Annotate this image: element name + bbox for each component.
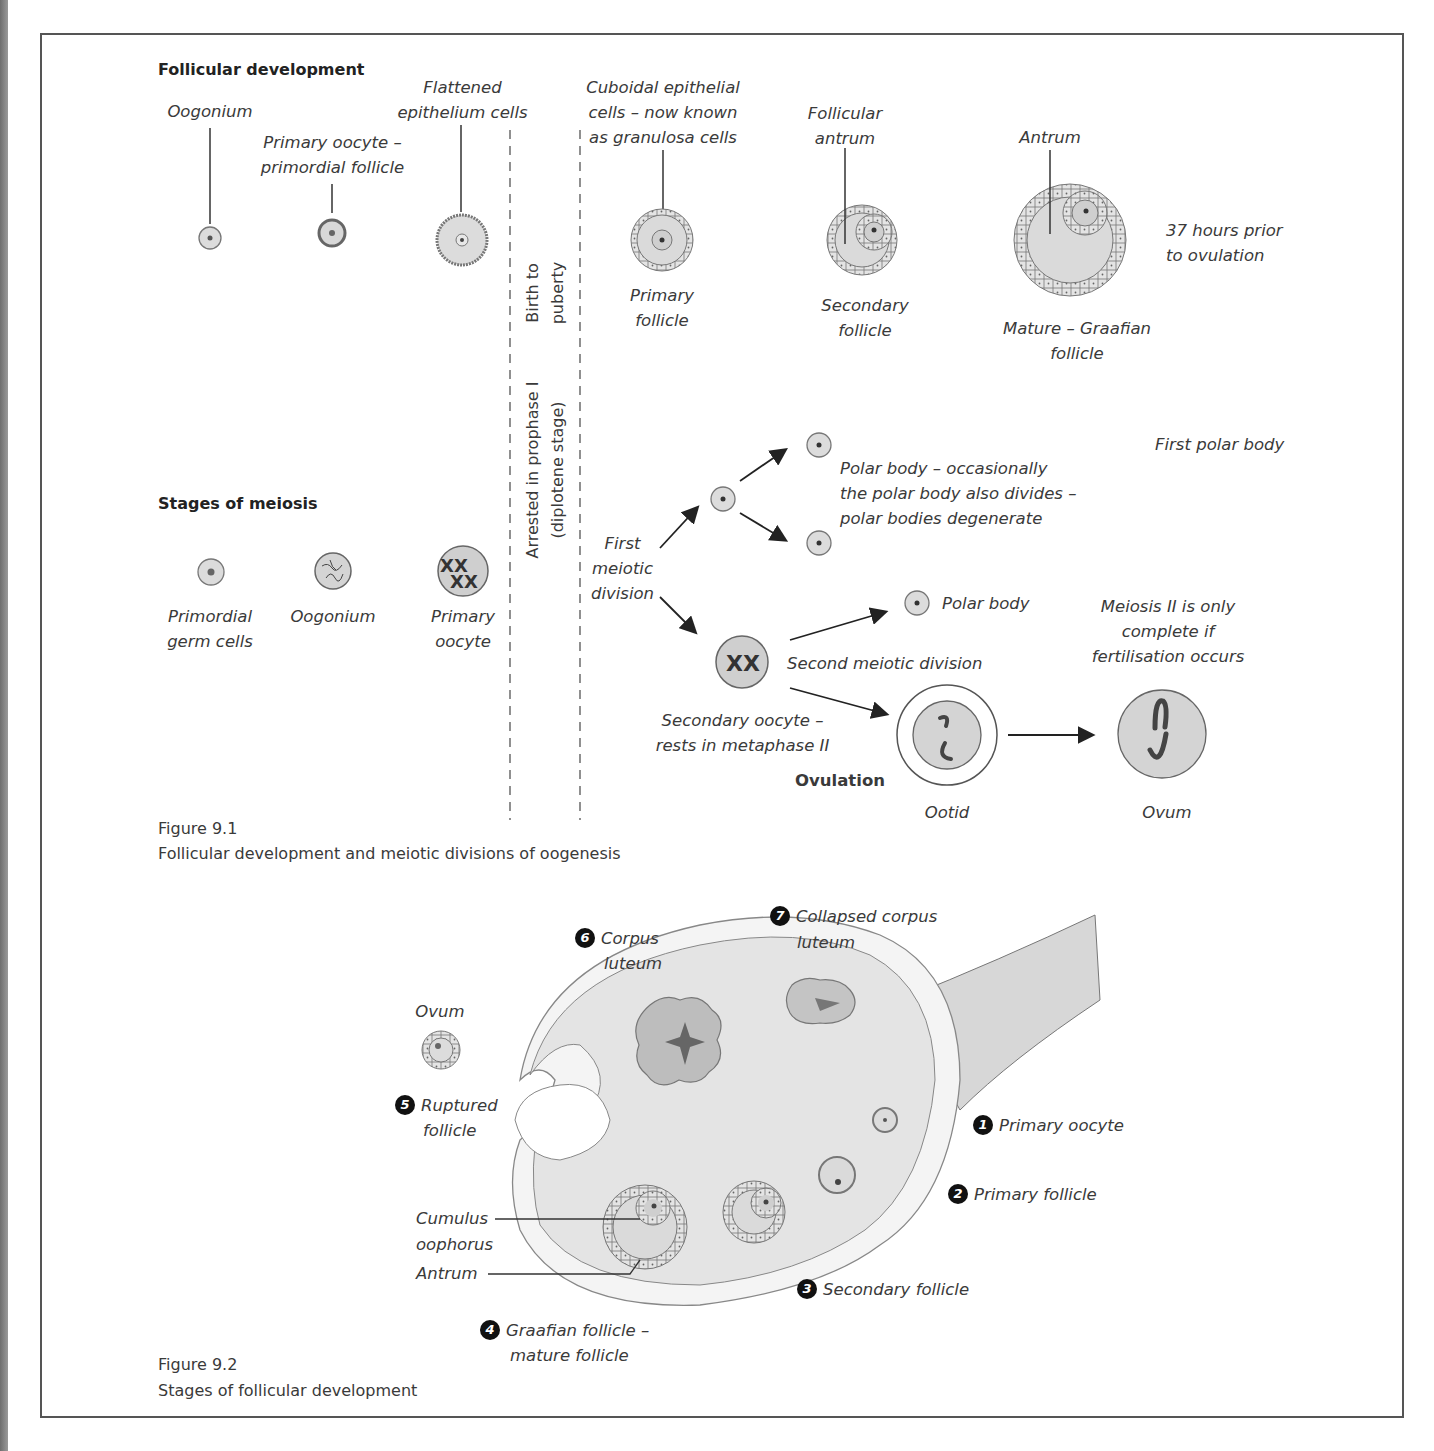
label-primary-oocyte-line2: primordial follicle	[250, 155, 415, 180]
label-second-meiotic: Second meiotic division	[787, 651, 982, 676]
svg-text:XX: XX	[450, 571, 478, 592]
label-flattened-line1: Flattened	[390, 75, 535, 100]
label-meiosis2-line3: fertilisation occurs	[1078, 644, 1258, 669]
label-meiosis2-line2: complete if	[1078, 619, 1258, 644]
label-cuboidal-line3: as granulosa cells	[582, 125, 744, 150]
stage-7-label: 7Collapsed corpus	[770, 904, 937, 929]
stage-7-badge: 7	[770, 906, 790, 926]
label-first-polar-body: First polar body	[1155, 432, 1284, 457]
label-ovum: Ovum	[1117, 800, 1217, 825]
stage-7-label-line2: luteum	[797, 930, 855, 955]
label-secondary-oocyte-line2: rests in metaphase II	[640, 733, 845, 758]
label-first-meiotic-line1: First	[585, 531, 660, 556]
label-cumulus-line1: Cumulus	[416, 1206, 488, 1231]
figure-9-2-number: Figure 9.2	[158, 1352, 237, 1378]
label-hours-line1: 37 hours prior	[1166, 218, 1283, 243]
label-released-ovum: Ovum	[400, 999, 480, 1024]
label-primary-oocyte-line1: Primary oocyte –	[250, 130, 415, 155]
label-mature-line1: Mature – Graafian	[992, 316, 1162, 341]
label-hours-line2: to ovulation	[1166, 243, 1264, 268]
label-primordial-line1: Primordial	[160, 604, 260, 629]
stage-4-badge: 4	[480, 1320, 500, 1340]
stage-5-badge: 5	[395, 1095, 415, 1115]
label-arrested-line2: (diplotene stage)	[546, 370, 570, 570]
stage-6-label: 6Corpus	[575, 926, 659, 951]
label-ootid: Ootid	[897, 800, 997, 825]
stage-1-label: 1Primary oocyte	[973, 1113, 1124, 1138]
figure-9-1-number: Figure 9.1	[158, 816, 237, 842]
label-primary-follicle-line1: Primary	[612, 283, 712, 308]
label-ovulation: Ovulation	[790, 768, 890, 793]
label-primary-follicle-line2: follicle	[612, 308, 712, 333]
label-polar-body: Polar body	[942, 591, 1030, 616]
label-primordial-line2: germ cells	[160, 629, 260, 654]
stage-1-badge: 1	[973, 1115, 993, 1135]
stage-2-label: 2Primary follicle	[948, 1182, 1097, 1207]
section-heading-meiosis: Stages of meiosis	[158, 494, 317, 513]
label-meiosis-primary-line1: Primary	[413, 604, 513, 629]
label-secondary-follicle-line2: follicle	[810, 318, 920, 343]
label-birth-line2: puberty	[546, 253, 570, 333]
label-polar-note-line3: polar bodies degenerate	[840, 506, 1042, 531]
label-arrested-line1: Arrested in prophase I	[521, 370, 545, 570]
section-heading-follicular: Follicular development	[158, 60, 364, 79]
label-mature-line2: follicle	[992, 341, 1162, 366]
label-polar-note-line2: the polar body also divides –	[840, 481, 1076, 506]
stage-5-label: 5Ruptured	[395, 1093, 498, 1118]
figure-9-1-caption: Follicular development and meiotic divis…	[158, 841, 621, 867]
label-secondary-oocyte-line1: Secondary oocyte –	[640, 708, 845, 733]
label-meiosis-primary-line2: oocyte	[413, 629, 513, 654]
label-follicular-antrum-line2: antrum	[795, 126, 895, 151]
label-first-meiotic-line2: meiotic	[585, 556, 660, 581]
label-cuboidal-line1: Cuboidal epithelial	[582, 75, 744, 100]
svg-text:XX: XX	[726, 651, 760, 676]
label-meiosis2-line1: Meiosis II is only	[1078, 594, 1258, 619]
label-flattened-line2: epithelium cells	[390, 100, 535, 125]
stage-3-label: 3Secondary follicle	[797, 1277, 969, 1302]
stage-6-label-line2: luteum	[604, 951, 662, 976]
label-secondary-follicle-line1: Secondary	[810, 293, 920, 318]
stage-4-label-line2: mature follicle	[510, 1343, 629, 1368]
label-cuboidal-line2: cells – now known	[582, 100, 744, 125]
label-polar-note-line1: Polar body – occasionally	[840, 456, 1047, 481]
stage-2-badge: 2	[948, 1184, 968, 1204]
stage-3-badge: 3	[797, 1279, 817, 1299]
stage-6-badge: 6	[575, 928, 595, 948]
label-meiosis-oogonium: Oogonium	[283, 604, 383, 629]
label-oogonium: Oogonium	[160, 99, 260, 124]
label-ovary-antrum: Antrum	[416, 1261, 478, 1286]
figure-9-2-caption: Stages of follicular development	[158, 1378, 417, 1404]
label-cumulus-line2: oophorus	[416, 1232, 493, 1257]
label-follicular-antrum-line1: Follicular	[795, 101, 895, 126]
stage-5-label-line2: follicle	[423, 1118, 476, 1143]
label-first-meiotic-line3: division	[585, 581, 660, 606]
ovary-illustration	[422, 915, 1100, 1305]
label-antrum: Antrum	[1000, 125, 1100, 150]
label-birth-line1: Birth to	[521, 253, 545, 333]
stage-4-label: 4Graafian follicle –	[480, 1318, 649, 1343]
